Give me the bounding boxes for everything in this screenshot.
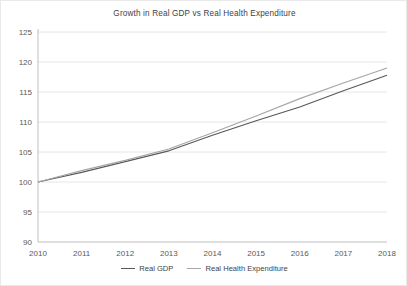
x-axis-tick-label: 2015 (247, 249, 265, 258)
x-axis-tick-label: 2014 (204, 249, 222, 258)
y-axis-tick-label: 120 (19, 58, 33, 67)
x-axis-tick-label: 2012 (116, 249, 134, 258)
plot-area: 9095100105110115120125 20102011201220132… (1, 1, 407, 286)
legend-swatch-real-health-expenditure (187, 268, 201, 269)
y-axis-tick-label: 100 (19, 178, 33, 187)
y-axis-tick-label: 115 (19, 88, 32, 97)
legend-label-real-gdp: Real GDP (139, 264, 173, 273)
y-axis-tick-label: 110 (19, 118, 32, 127)
legend-item-real-health-expenditure[interactable]: Real Health Expenditure (187, 264, 287, 273)
x-axis-tick-label: 2018 (378, 249, 396, 258)
y-axis-tick-label: 125 (19, 28, 33, 37)
legend-label-real-health-expenditure: Real Health Expenditure (205, 264, 287, 273)
x-axis-tick-label: 2017 (334, 249, 352, 258)
chart-frame: Growth in Real GDP vs Real Health Expend… (0, 0, 407, 286)
y-axis-tick-label: 95 (23, 208, 32, 217)
legend-item-real-gdp[interactable]: Real GDP (121, 264, 173, 273)
y-axis-tick-labels: 9095100105110115120125 (19, 28, 33, 247)
x-axis-tick-label: 2011 (73, 249, 91, 258)
x-axis-tick-label: 2010 (29, 249, 47, 258)
gridlines (38, 32, 387, 242)
series-line (38, 75, 387, 182)
chart-legend: Real GDP Real Health Expenditure (1, 264, 407, 273)
legend-swatch-real-gdp (121, 268, 135, 269)
x-axis-tick-label: 2013 (160, 249, 178, 258)
x-axis-tick-label: 2016 (291, 249, 309, 258)
y-axis-tick-label: 90 (23, 238, 32, 247)
x-axis-tick-labels: 201020112012201320142015201620172018 (29, 249, 396, 258)
series-lines (38, 68, 387, 182)
y-axis-tick-label: 105 (19, 148, 33, 157)
series-line (38, 68, 387, 182)
